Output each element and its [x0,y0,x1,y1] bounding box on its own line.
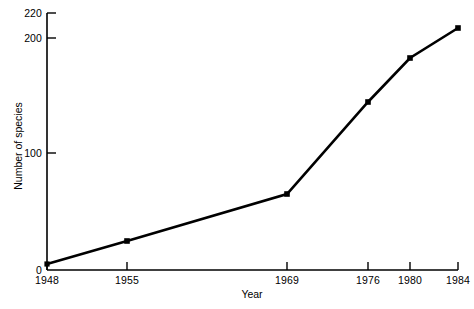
x-tick-label-1980: 1980 [398,274,422,286]
data-line-number-of-species [47,28,458,264]
x-tick-label-1984: 1984 [446,274,470,286]
x-axis-ticks [47,262,458,270]
data-point-1969 [284,191,290,197]
data-point-1984 [455,25,461,31]
line-chart-figure: 220 200 100 0 1948 1955 1969 1976 1980 1… [0,0,474,309]
y-tick-label-220: 220 [0,7,42,19]
data-point-markers [44,25,460,266]
data-point-1980 [407,55,413,61]
data-point-1976 [365,99,371,105]
plot-area [0,0,474,309]
x-tick-label-1955: 1955 [115,274,139,286]
y-axis-ticks [47,13,56,153]
y-tick-label-200: 200 [0,32,42,44]
x-tick-label-1948: 1948 [35,274,59,286]
x-tick-label-1976: 1976 [356,274,380,286]
x-tick-label-1969: 1969 [275,274,299,286]
y-axis-title: Number of species [12,86,24,206]
data-point-1948 [44,261,49,266]
x-axis-title: Year [241,288,262,300]
data-point-1955 [124,238,130,244]
